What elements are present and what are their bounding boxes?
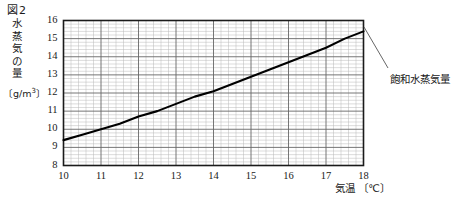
x-tick-label: 12 bbox=[128, 170, 150, 181]
annotation-leader-line bbox=[364, 27, 388, 68]
figure-container: 図2 水 蒸 気 の 量 〔g/m3〕 気温 〔℃〕 飽和水蒸気量 891011… bbox=[0, 0, 471, 201]
y-tick-label: 10 bbox=[36, 122, 58, 133]
x-tick-label: 14 bbox=[203, 170, 225, 181]
x-tick-label: 17 bbox=[315, 170, 337, 181]
x-tick-label: 16 bbox=[278, 170, 300, 181]
y-tick-label: 16 bbox=[36, 14, 58, 25]
y-tick-label: 12 bbox=[36, 86, 58, 97]
y-tick-label: 11 bbox=[36, 104, 58, 115]
y-tick-label: 15 bbox=[36, 32, 58, 43]
y-tick-label: 13 bbox=[36, 68, 58, 79]
x-tick-label: 15 bbox=[240, 170, 262, 181]
x-tick-label: 18 bbox=[353, 170, 375, 181]
y-tick-label: 8 bbox=[36, 159, 58, 170]
x-tick-label: 10 bbox=[53, 170, 75, 181]
y-tick-label: 9 bbox=[36, 140, 58, 151]
x-tick-label: 11 bbox=[90, 170, 112, 181]
x-tick-label: 13 bbox=[165, 170, 187, 181]
y-tick-label: 14 bbox=[36, 50, 58, 61]
